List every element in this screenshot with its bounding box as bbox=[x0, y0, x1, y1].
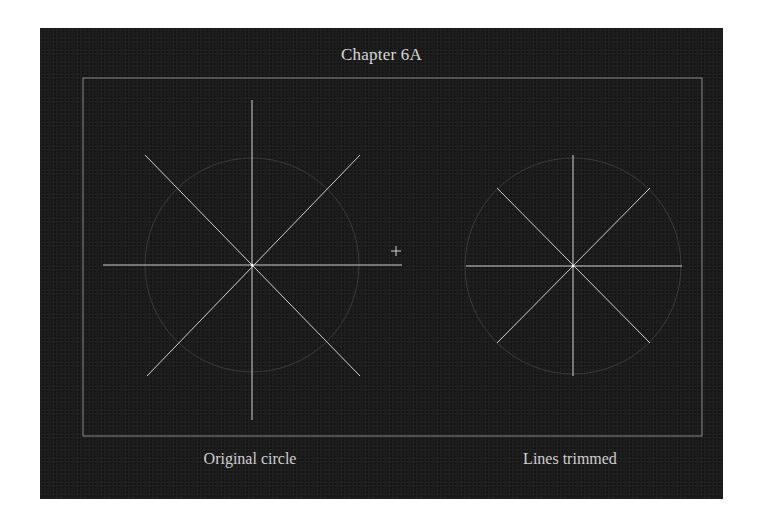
caption-lines-trimmed: Lines trimmed bbox=[460, 450, 680, 468]
drawing-frame bbox=[83, 78, 702, 436]
original-circle-group bbox=[103, 100, 402, 420]
drawing-panel: Chapter 6A Original circle Lines bbox=[40, 28, 723, 499]
drawing-canvas[interactable] bbox=[40, 28, 723, 499]
crosshair-icon bbox=[391, 246, 401, 256]
trimmed-center-point bbox=[572, 265, 575, 268]
center-point bbox=[251, 264, 254, 267]
trimmed-lines-group bbox=[465, 155, 682, 376]
caption-original-circle: Original circle bbox=[140, 450, 360, 468]
